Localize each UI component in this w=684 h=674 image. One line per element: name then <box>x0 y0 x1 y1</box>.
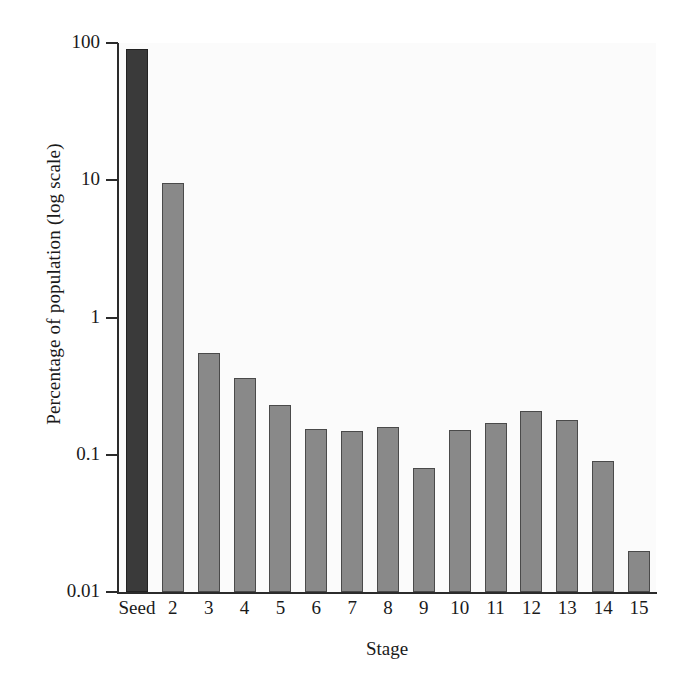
x-tick-label-group: Seed23456789101112131415 <box>119 597 657 627</box>
x-tick-label: 12 <box>522 597 541 619</box>
x-tick-label: 15 <box>630 597 649 619</box>
y-tick-label: 1 <box>30 307 100 326</box>
x-tick-label: 14 <box>594 597 613 619</box>
x-tick-label: 3 <box>204 597 214 619</box>
y-tick-label-group: 1001010.10.01 <box>18 0 100 674</box>
bar-14[interactable] <box>592 461 614 592</box>
x-tick-label: 10 <box>450 597 469 619</box>
x-tick-label: 8 <box>383 597 393 619</box>
y-tick-mark <box>106 179 118 181</box>
y-tick-label: 0.01 <box>30 581 100 600</box>
y-tick-mark <box>106 42 118 44</box>
x-tick-label: 6 <box>312 597 322 619</box>
x-tick-label: 9 <box>419 597 429 619</box>
x-tick-label: 7 <box>347 597 357 619</box>
y-tick-label: 10 <box>30 169 100 188</box>
bar-7[interactable] <box>341 431 363 592</box>
bar-15[interactable] <box>628 551 650 592</box>
bar-2[interactable] <box>162 183 184 592</box>
x-axis-spine <box>117 592 657 594</box>
x-tick-label: 11 <box>486 597 504 619</box>
bar-13[interactable] <box>556 420 578 592</box>
bar-3[interactable] <box>198 353 220 592</box>
x-tick-label: Seed <box>118 597 155 619</box>
bar-10[interactable] <box>449 430 471 592</box>
bar-5[interactable] <box>269 405 291 592</box>
bar-chart-figure: Percentage of population (log scale) 100… <box>0 0 684 674</box>
bar-group <box>119 43 657 592</box>
bar-11[interactable] <box>485 423 507 592</box>
x-axis-title: Stage <box>117 638 657 660</box>
y-tick-label: 100 <box>30 32 100 51</box>
y-tick-mark <box>106 454 118 456</box>
bar-8[interactable] <box>377 427 399 592</box>
x-tick-label: 13 <box>558 597 577 619</box>
y-tick-label: 0.1 <box>30 444 100 463</box>
bar-6[interactable] <box>305 429 327 592</box>
bar-seed[interactable] <box>126 49 148 592</box>
x-tick-label: 4 <box>240 597 250 619</box>
x-tick-label: 2 <box>168 597 178 619</box>
bar-4[interactable] <box>234 378 256 592</box>
bar-12[interactable] <box>520 411 542 592</box>
y-tick-mark <box>106 317 118 319</box>
y-tick-mark <box>106 591 118 593</box>
bar-9[interactable] <box>413 468 435 592</box>
x-tick-label: 5 <box>276 597 286 619</box>
